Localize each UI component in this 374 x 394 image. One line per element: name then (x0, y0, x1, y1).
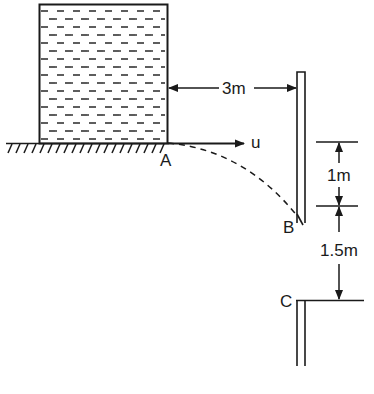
label-point-b: B (283, 218, 294, 237)
label-1m: 1m (327, 166, 351, 185)
trajectory-path (168, 143, 298, 217)
water-tank (40, 5, 168, 144)
distance-3m-dimension: 3m (169, 79, 296, 98)
label-1-5m: 1.5m (320, 241, 358, 260)
velocity-arrow: u (168, 133, 260, 152)
ground (6, 144, 168, 154)
label-3m: 3m (222, 79, 246, 98)
label-u: u (251, 133, 260, 152)
label-point-c: C (280, 292, 292, 311)
upper-wall (297, 72, 305, 225)
projectile-diagram: 3m u A B 1m 1.5m C (0, 0, 374, 394)
label-point-a: A (160, 151, 172, 170)
landing-ledge (296, 300, 364, 366)
